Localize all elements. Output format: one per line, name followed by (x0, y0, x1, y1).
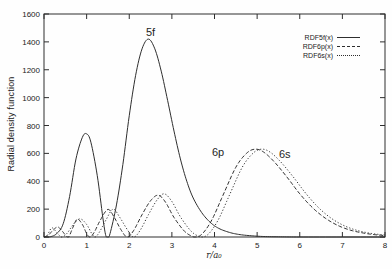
y-tick-label: 0 (36, 233, 41, 242)
x-tick-label: 0 (42, 241, 47, 250)
curve-label-6p: 6p (212, 146, 224, 158)
legend-entry-rdf6p: RDF6p(x) (284, 42, 360, 51)
legend-entry-rdf5f: RDF5f(x) (284, 33, 360, 42)
curve-label-6s: 6s (279, 148, 291, 160)
legend-label-rdf5f: RDF5f(x) (305, 34, 333, 41)
legend: RDF5f(x) RDF6p(x) RDF6s(x) (284, 33, 360, 60)
x-tick-label: 2 (127, 241, 132, 250)
y-tick-label: 1000 (22, 94, 40, 103)
x-tick-label: 7 (340, 241, 345, 250)
x-tick-label: 1 (84, 241, 89, 250)
legend-label-rdf6s: RDF6s(x) (303, 52, 333, 59)
legend-label-rdf6p: RDF6p(x) (303, 43, 333, 50)
y-tick-label: 800 (27, 122, 41, 131)
x-tick-label: 6 (298, 241, 303, 250)
x-tick-label: 3 (170, 241, 175, 250)
x-tick-label: 5 (255, 241, 260, 250)
solid-line-sample-icon (337, 37, 360, 38)
dotted-line-sample-icon (337, 55, 360, 56)
y-axis-label: Radial density function (6, 49, 16, 199)
x-tick-label: 8 (383, 241, 388, 250)
rdf-chart-figure: 01234567802004006008001000120014001600 R… (0, 0, 392, 269)
legend-entry-rdf6s: RDF6s(x) (284, 51, 360, 60)
x-axis-label: r/a₀ (164, 250, 264, 260)
y-tick-label: 1200 (22, 66, 40, 75)
x-tick-label: 4 (212, 241, 217, 250)
y-tick-label: 1600 (22, 10, 40, 19)
y-tick-label: 200 (27, 205, 41, 214)
y-tick-label: 600 (27, 149, 41, 158)
curve-label-5f: 5f (146, 26, 155, 38)
y-tick-label: 400 (27, 177, 41, 186)
curve-5f (44, 39, 385, 237)
y-tick-label: 1400 (22, 38, 40, 47)
dashed-line-sample-icon (337, 46, 360, 47)
